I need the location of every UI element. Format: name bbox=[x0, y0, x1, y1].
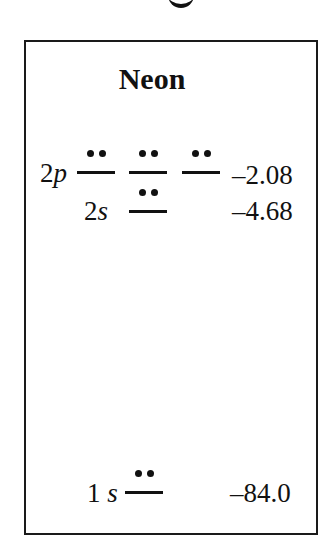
level-label-2p: 2p bbox=[40, 158, 67, 188]
cropped-caption-fragment bbox=[168, 0, 194, 8]
diagram-title: Neon bbox=[0, 62, 326, 96]
energy-value-2s: –4.68 bbox=[232, 196, 293, 226]
electron-pair-icon bbox=[77, 150, 115, 157]
energy-value-2p: –2.08 bbox=[232, 160, 293, 190]
orbital-line-2p-2 bbox=[129, 171, 167, 174]
electron-pair-icon bbox=[129, 189, 167, 196]
level-label-2s: 2s bbox=[84, 196, 108, 226]
orbital-line-2s bbox=[129, 210, 167, 213]
orbital-line-2p-1 bbox=[77, 171, 115, 174]
energy-level-diagram-frame bbox=[24, 40, 318, 535]
electron-pair-icon bbox=[182, 150, 220, 157]
energy-value-1s: –84.0 bbox=[230, 478, 291, 508]
level-label-1s: 1 s bbox=[87, 478, 118, 508]
electron-pair-icon bbox=[129, 150, 167, 157]
orbital-line-1s bbox=[125, 491, 163, 494]
electron-pair-icon bbox=[125, 470, 163, 477]
orbital-line-2p-3 bbox=[182, 171, 220, 174]
